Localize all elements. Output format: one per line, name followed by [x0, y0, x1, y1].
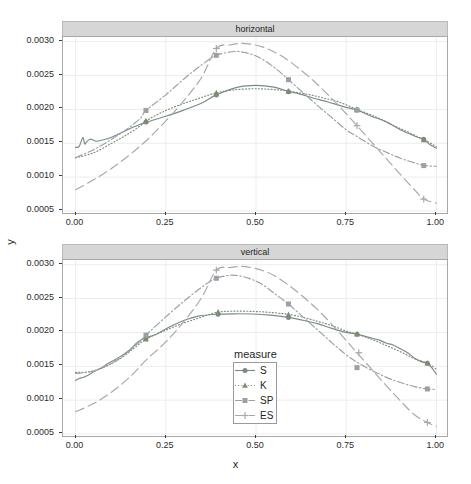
y-tick-label: 0.0025	[8, 292, 54, 302]
x-tick-mark	[345, 212, 346, 215]
y-tick-mark	[59, 297, 62, 298]
x-tick-label: 1.00	[415, 217, 455, 227]
y-tick-mark	[59, 74, 62, 75]
legend-label-K: K	[256, 380, 267, 391]
legend-item-K[interactable]: K	[234, 378, 276, 393]
y-tick-label: 0.0025	[8, 69, 54, 79]
x-tick-mark	[435, 435, 436, 438]
y-tick-label: 0.0010	[8, 170, 54, 180]
legend-item-ES[interactable]: ES	[234, 408, 276, 423]
y-tick-mark	[59, 141, 62, 142]
y-tick-mark	[59, 175, 62, 176]
x-tick-label: 0.75	[325, 217, 365, 227]
y-tick-mark	[59, 398, 62, 399]
legend: measure SKSPES	[233, 348, 277, 424]
strip-label-horizontal: horizontal	[62, 21, 448, 36]
legend-label-S: S	[256, 365, 267, 376]
legend-box: SKSPES	[233, 362, 277, 424]
x-tick-label: 0.00	[55, 217, 95, 227]
y-tick-mark	[59, 107, 62, 108]
x-tick-mark	[75, 212, 76, 215]
y-tick-mark	[59, 364, 62, 365]
legend-label-ES: ES	[256, 410, 273, 421]
legend-key-K-icon	[234, 378, 256, 393]
x-tick-label: 0.25	[145, 440, 185, 450]
legend-key-SP-icon	[234, 393, 256, 408]
x-tick-label: 0.50	[235, 217, 275, 227]
legend-key-ES-icon	[234, 408, 256, 423]
y-tick-label: 0.0030	[8, 35, 54, 45]
legend-item-S[interactable]: S	[234, 363, 276, 378]
y-tick-label: 0.0010	[8, 393, 54, 403]
x-tick-label: 0.50	[235, 440, 275, 450]
y-axis-title: y	[0, 234, 20, 250]
x-tick-mark	[345, 435, 346, 438]
y-tick-mark	[59, 209, 62, 210]
x-tick-mark	[75, 435, 76, 438]
x-tick-label: 1.00	[415, 440, 455, 450]
x-tick-mark	[165, 212, 166, 215]
x-tick-label: 0.25	[145, 217, 185, 227]
x-tick-mark	[255, 212, 256, 215]
facet-panel-horizontal: horizontal	[62, 21, 448, 214]
x-tick-label: 0.00	[55, 440, 95, 450]
y-tick-mark	[59, 263, 62, 264]
y-tick-label: 0.0020	[8, 102, 54, 112]
x-tick-label: 0.75	[325, 440, 365, 450]
legend-label-SP: SP	[256, 395, 273, 406]
plot-area-horizontal	[62, 36, 448, 214]
plot-svg-horizontal	[63, 37, 448, 213]
x-tick-mark	[165, 435, 166, 438]
chart-root: y x horizontal vertical 0.00050.00100.00…	[0, 0, 471, 484]
legend-item-SP[interactable]: SP	[234, 393, 276, 408]
legend-key-S-icon	[234, 363, 256, 378]
y-tick-label: 0.0020	[8, 325, 54, 335]
y-tick-mark	[59, 40, 62, 41]
y-tick-label: 0.0015	[8, 359, 54, 369]
y-tick-label: 0.0005	[8, 204, 54, 214]
x-tick-mark	[255, 435, 256, 438]
y-tick-label: 0.0005	[8, 427, 54, 437]
y-tick-label: 0.0015	[8, 136, 54, 146]
y-tick-label: 0.0030	[8, 258, 54, 268]
y-tick-mark	[59, 330, 62, 331]
strip-label-vertical: vertical	[62, 244, 448, 259]
x-tick-mark	[435, 212, 436, 215]
legend-title: measure	[233, 348, 277, 360]
y-tick-mark	[59, 432, 62, 433]
x-axis-title: x	[0, 458, 471, 470]
